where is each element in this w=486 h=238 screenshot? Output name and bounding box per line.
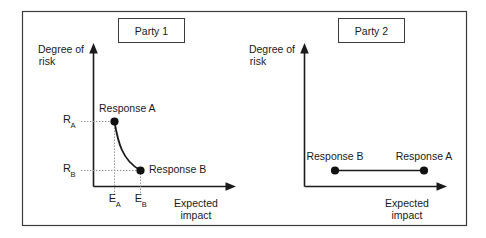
- party1-xtick-eb: EB: [126, 193, 156, 209]
- party2-x-axis-label-line1: Expected: [374, 198, 440, 210]
- party1-y-axis-label: Degree of risk: [10, 44, 84, 67]
- party2-point-response-a: [420, 166, 428, 174]
- party1-annotation-response-b: Response B: [149, 164, 206, 176]
- party1-annotation-response-a: Response A: [99, 103, 156, 115]
- party1-response-curve: [115, 122, 141, 170]
- party1-point-response-b: [136, 166, 144, 174]
- party1-y-axis-arrowhead: [89, 43, 98, 54]
- party-2-title-box: Party 2: [338, 18, 405, 43]
- party-1-title-box: Party 1: [118, 18, 185, 43]
- party1-xtick-eb-sub: B: [142, 200, 147, 209]
- party2-y-axis-arrowhead: [300, 43, 309, 54]
- party1-y-axis-label-line2: risk: [10, 56, 84, 68]
- party1-ytick-ra: RA: [63, 114, 76, 130]
- figure-diagram: Party 1 Degree of risk Expected impact R…: [0, 0, 486, 238]
- party2-x-axis-arrowhead: [437, 182, 448, 191]
- party-2-title: Party 2: [355, 25, 388, 37]
- party1-ytick-ra-sub: A: [70, 121, 75, 130]
- party1-x-axis-label: Expected impact: [163, 198, 229, 221]
- party2-annotation-response-a: Response A: [393, 151, 455, 163]
- party2-y-axis-label-line2: risk: [221, 56, 295, 68]
- party1-ytick-rb: RB: [63, 163, 76, 179]
- party1-point-response-a: [110, 117, 118, 125]
- party2-y-axis-label-line1: Degree of: [221, 44, 295, 56]
- party2-x-axis-label: Expected impact: [374, 198, 440, 221]
- party2-y-axis-label: Degree of risk: [221, 44, 295, 67]
- party-1-title: Party 1: [135, 25, 168, 37]
- party1-y-axis-label-line1: Degree of: [10, 44, 84, 56]
- party1-x-axis-label-line1: Expected: [163, 198, 229, 210]
- party1-ytick-rb-sub: B: [70, 170, 75, 179]
- party1-x-axis-arrowhead: [226, 182, 237, 191]
- party2-x-axis-label-line2: impact: [374, 210, 440, 222]
- party1-xtick-ea-sub: A: [116, 200, 121, 209]
- party2-point-response-b: [331, 166, 339, 174]
- party1-x-axis-label-line2: impact: [163, 210, 229, 222]
- party2-annotation-response-b: Response B: [304, 151, 366, 163]
